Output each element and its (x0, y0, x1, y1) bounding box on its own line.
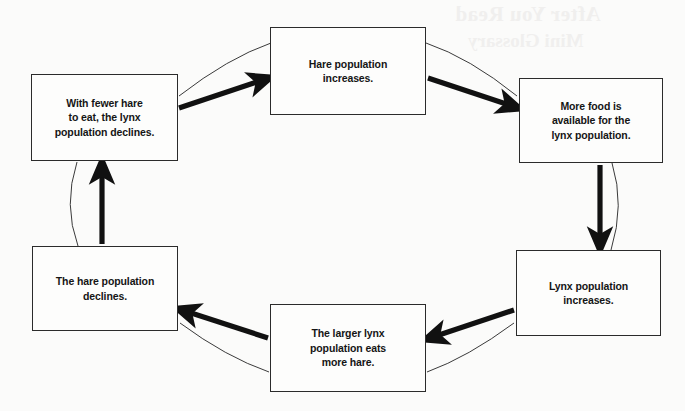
guide-arc-right (611, 163, 618, 250)
node-line: available for the (552, 113, 631, 127)
arrow-lynx-increase-to-lynx-eats (430, 310, 514, 338)
guide-arc-lower-right (427, 323, 514, 372)
node-line: Lynx population (549, 279, 628, 293)
node-more-food-available: More food is available for the lynx popu… (519, 78, 663, 163)
node-line: to eat, the lynx (55, 110, 155, 124)
guide-arc-upper-right (426, 43, 517, 96)
node-larger-lynx-population-eats-more-hare: The larger lynx population eats more har… (270, 304, 426, 392)
node-line: Hare population (309, 57, 387, 71)
node-line: declines. (56, 289, 154, 303)
node-line: With fewer hare (55, 96, 155, 110)
node-line: increases. (549, 293, 628, 307)
node-line: population declines. (55, 125, 155, 139)
node-line: The larger lynx (310, 326, 386, 340)
guide-arc-left (70, 162, 78, 246)
node-hare-population-increases: Hare population increases. (270, 27, 426, 115)
node-lynx-population-declines: With fewer hare to eat, the lynx populat… (31, 74, 178, 161)
node-line: More food is (552, 99, 631, 113)
node-line: lynx population. (552, 128, 631, 142)
node-line: The hare population (56, 274, 154, 288)
guide-arc-upper-left (179, 43, 271, 96)
node-line: increases. (309, 71, 387, 85)
diagram-page: After You Read Mini Glossary (0, 0, 685, 411)
node-line: more hare. (310, 355, 386, 369)
node-line: population eats (310, 341, 386, 355)
arrow-hare-increase-to-more-food (428, 78, 515, 107)
node-lynx-population-increases: Lynx population increases. (516, 250, 661, 336)
guide-arc-lower-left (180, 323, 269, 372)
node-hare-population-declines: The hare population declines. (32, 246, 178, 331)
arrow-lynx-decline-to-hare-increase (179, 79, 266, 108)
